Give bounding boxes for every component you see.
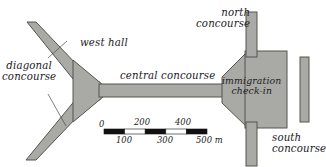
label-north-concourse-line1: north bbox=[196, 7, 250, 18]
label-central-concourse: central concourse bbox=[120, 70, 215, 81]
leader-line-lower bbox=[48, 94, 66, 126]
satellite-pier-bar bbox=[300, 57, 309, 122]
label-north-concourse-line2: concourse bbox=[196, 18, 250, 29]
scale-seg-2 bbox=[145, 129, 166, 134]
label-south-concourse-line1: south bbox=[272, 132, 326, 143]
scale-tick-300: 300 bbox=[157, 135, 173, 145]
label-immigration-check-in: immigration check-in bbox=[222, 76, 281, 97]
label-immigration-line2: check-in bbox=[222, 86, 281, 96]
scale-bar bbox=[104, 129, 207, 134]
scale-tick-400: 400 bbox=[175, 117, 191, 127]
central-concourse-corridor bbox=[99, 84, 226, 97]
scale-seg-1 bbox=[125, 129, 146, 134]
scale-seg-0 bbox=[104, 129, 125, 134]
label-north-concourse: north concourse bbox=[196, 7, 250, 30]
label-diagonal-concourse: diagonal concourse bbox=[2, 60, 56, 83]
label-south-concourse: south concourse bbox=[272, 132, 326, 155]
south-concourse-bar bbox=[246, 122, 257, 166]
scale-tick-100: 100 bbox=[116, 135, 132, 145]
label-diagonal-concourse-line1: diagonal bbox=[2, 60, 56, 71]
label-west-hall: west hall bbox=[80, 37, 128, 48]
scale-tick-200: 200 bbox=[134, 117, 150, 127]
scale-tick-500-unit: 500 m bbox=[196, 135, 223, 145]
label-south-concourse-line2: concourse bbox=[272, 143, 326, 154]
scale-seg-4 bbox=[186, 129, 207, 134]
label-diagonal-concourse-line2: concourse bbox=[2, 71, 56, 82]
scale-tick-0: 0 bbox=[99, 119, 104, 129]
scale-seg-3 bbox=[166, 129, 187, 134]
